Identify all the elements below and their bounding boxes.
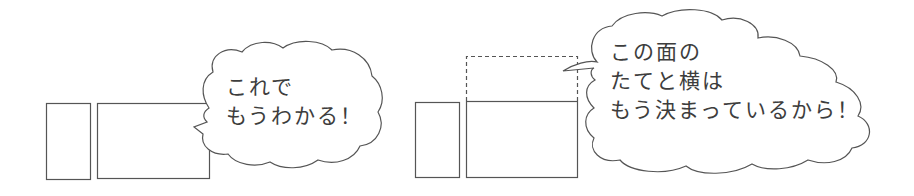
right-dashed-rectangle — [467, 57, 578, 102]
left-speech-text: これで もうわかる！ — [226, 73, 363, 131]
left-speech-line: これで — [226, 73, 363, 102]
right-speech-text: この面の たてと横は もう決まっているから！ — [610, 38, 860, 125]
right-speech-line: たてと横は — [610, 67, 860, 96]
left-small-rectangle — [47, 104, 91, 180]
right-large-rectangle — [467, 102, 578, 178]
right-speech-line: もう決まっているから！ — [610, 96, 860, 125]
left-large-rectangle — [98, 104, 210, 179]
left-speech-line: もうわかる！ — [226, 102, 363, 131]
right-speech-line: この面の — [610, 38, 860, 67]
right-small-rectangle — [416, 103, 460, 178]
